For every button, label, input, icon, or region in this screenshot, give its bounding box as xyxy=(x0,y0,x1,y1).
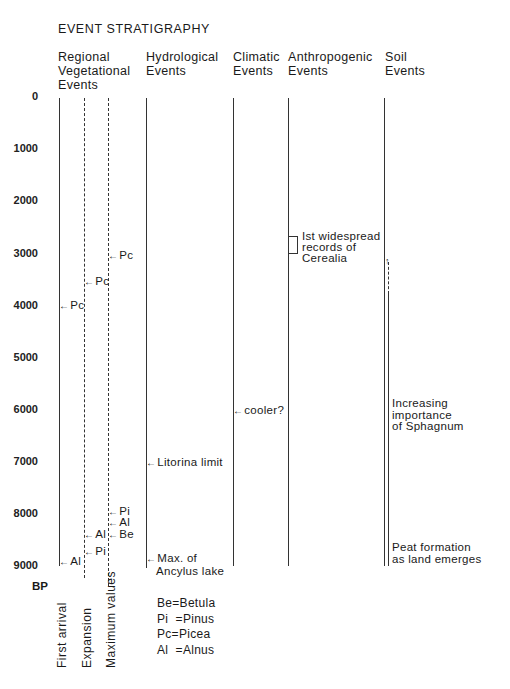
event-first-arrival-alnus: ←Al xyxy=(59,555,81,568)
event-label: Increasing xyxy=(392,398,464,410)
header-line: Soil xyxy=(385,50,425,64)
expansion-line xyxy=(84,98,85,578)
axis-tick-6000: 6000 xyxy=(2,403,38,415)
event-label: Pc xyxy=(95,275,109,287)
legend-name: Pinus xyxy=(183,612,215,626)
diagram-title: EVENT STRATIGRAPHY xyxy=(58,22,210,36)
legend-sep: = xyxy=(172,596,179,610)
arrow-left-icon: ← xyxy=(146,552,156,565)
event-maximum-betula: ←Be xyxy=(108,528,134,541)
event-label: Cerealia xyxy=(302,253,380,264)
legend-item-picea: Pc=Picea xyxy=(157,627,215,643)
header-line: Events xyxy=(233,64,280,78)
axis-tick-5000: 5000 xyxy=(2,351,38,363)
header-line: Events xyxy=(288,64,373,78)
header-hydrological-events: Hydrological Events xyxy=(146,50,218,78)
event-max-ancylus-lake: ←Max. of Ancylus lake xyxy=(146,552,224,578)
legend-sep: = xyxy=(172,643,183,657)
legend-item-alnus: Al =Alnus xyxy=(157,643,215,659)
event-label: Pc xyxy=(70,299,84,311)
soil-arrow-up-icon: ↑ xyxy=(385,256,390,266)
axis-tick-7000: 7000 xyxy=(2,455,38,467)
event-litorina-limit: ←Litorina limit xyxy=(146,456,223,469)
legend-name: Picea xyxy=(179,627,211,641)
event-sphagnum: Increasing importance of Sphagnum xyxy=(392,398,464,433)
axis-tick-1000: 1000 xyxy=(2,142,38,154)
arrow-left-icon: ← xyxy=(59,556,69,568)
anthropogenic-line xyxy=(288,98,289,566)
event-label: of Sphagnum xyxy=(392,421,464,433)
first-arrival-line xyxy=(59,98,60,566)
taxa-legend: Be=Betula Pi =Pinus Pc=Picea Al =Alnus xyxy=(157,596,215,658)
event-expansion-picea: ←Pc xyxy=(84,275,109,288)
legend-name: Alnus xyxy=(183,643,215,657)
arrow-left-icon: ← xyxy=(108,250,118,262)
event-label: as land emerges xyxy=(392,553,482,565)
event-label: Pi xyxy=(95,545,106,557)
axis-tick-0: 0 xyxy=(2,90,38,102)
axis-unit-bp: BP xyxy=(32,580,48,592)
soil-line xyxy=(384,98,385,566)
event-label: Pc xyxy=(119,249,133,261)
arrow-left-icon: ← xyxy=(84,529,94,541)
legend-abbr: Pc xyxy=(157,627,172,641)
header-line: Events xyxy=(58,78,130,92)
event-maximum-picea: ←Pc xyxy=(108,249,133,262)
event-label: Al xyxy=(95,528,106,540)
event-label: Al xyxy=(70,555,81,567)
event-expansion-pinus: ←Pi xyxy=(84,545,106,558)
event-cerealia: Ist widespread records of Cerealia xyxy=(302,231,380,264)
event-label: Be xyxy=(119,528,134,540)
legend-sep: = xyxy=(172,627,179,641)
legend-abbr: Al xyxy=(157,643,168,657)
legend-abbr: Pi xyxy=(157,612,168,626)
event-first-arrival-picea: ←Pc xyxy=(59,299,84,312)
legend-item-pinus: Pi =Pinus xyxy=(157,612,215,628)
hydrological-line xyxy=(146,98,147,568)
header-line: Events xyxy=(146,64,218,78)
axis-tick-4000: 4000 xyxy=(2,299,38,311)
label-expansion: Expansion xyxy=(80,607,94,668)
event-cooler: ←cooler? xyxy=(233,404,284,417)
event-label: Max. of xyxy=(157,552,197,564)
arrow-left-icon: ← xyxy=(84,276,94,288)
event-label: Al xyxy=(119,516,130,528)
climatic-line xyxy=(233,98,234,566)
event-label: Peat formation xyxy=(392,541,482,553)
header-line: Climatic xyxy=(233,50,280,64)
event-label: Litorina limit xyxy=(157,456,223,468)
legend-name: Betula xyxy=(180,596,216,610)
legend-item-betula: Be=Betula xyxy=(157,596,215,612)
arrow-left-icon: ← xyxy=(59,300,69,312)
arrow-left-icon: ← xyxy=(146,457,156,469)
header-climatic-events: Climatic Events xyxy=(233,50,280,78)
header-line: Vegetational xyxy=(58,64,130,78)
event-expansion-alnus: ←Al xyxy=(84,528,106,541)
header-line: Anthropogenic xyxy=(288,50,373,64)
header-anthropogenic-events: Anthropogenic Events xyxy=(288,50,373,78)
event-label: cooler? xyxy=(244,404,284,416)
arrow-left-icon: ← xyxy=(84,546,94,558)
axis-tick-9000: 9000 xyxy=(2,559,38,571)
legend-sep: = xyxy=(172,612,183,626)
event-label: Ancylus lake xyxy=(146,565,224,578)
axis-tick-2000: 2000 xyxy=(2,194,38,206)
arrow-left-icon: ← xyxy=(233,405,243,417)
axis-tick-3000: 3000 xyxy=(2,247,38,259)
label-first-arrival: First arrival xyxy=(55,602,69,668)
axis-tick-8000: 8000 xyxy=(2,507,38,519)
soil-dashed-segment xyxy=(388,262,389,294)
label-maximum-values: Maximum values xyxy=(104,571,118,668)
header-line: Events xyxy=(385,64,425,78)
event-peat-formation: Peat formation as land emerges xyxy=(392,541,482,565)
cerealia-bracket-icon xyxy=(289,236,298,254)
header-soil-events: Soil Events xyxy=(385,50,425,78)
header-regional-vegetational-events: Regional Vegetational Events xyxy=(58,50,130,92)
header-line: Hydrological xyxy=(146,50,218,64)
legend-abbr: Be xyxy=(157,596,172,610)
soil-second-line xyxy=(388,294,389,566)
header-line: Regional xyxy=(58,50,130,64)
arrow-left-icon: ← xyxy=(108,529,118,541)
